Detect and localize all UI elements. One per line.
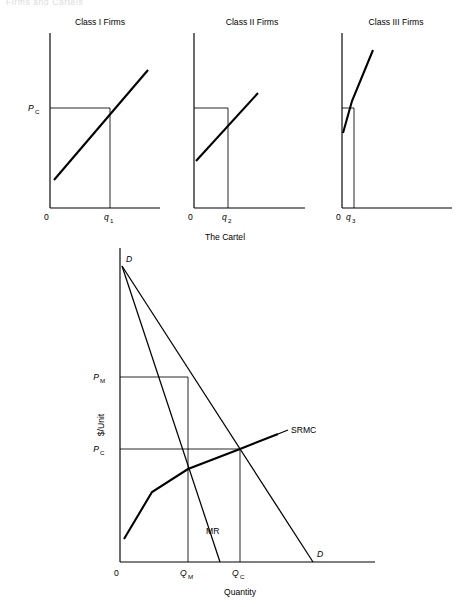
panel-class-3-x-tick-label: q 3 <box>346 212 356 224</box>
cartel-demand-curve <box>122 266 313 562</box>
panel-class-2-title: Class II Firms <box>226 17 279 27</box>
figure-page: Firms and Cartels Class I Firms P C 0 q … <box>0 0 462 607</box>
panel-class-1-price-label: P C <box>28 103 40 115</box>
cartel-mr-label: MR <box>206 526 219 536</box>
economics-figure: Class I Firms P C 0 q 1 Class II Firms <box>0 0 462 607</box>
cartel-title: The Cartel <box>205 232 245 242</box>
cartel-pm-label: P M <box>93 372 105 384</box>
panel-class-1-mc-curve <box>54 70 148 180</box>
svg-text:C: C <box>100 449 105 456</box>
cartel-demand-top-label: D <box>126 254 132 264</box>
cartel-y-axis-title: $/Unit <box>96 413 106 436</box>
svg-text:C: C <box>35 108 40 115</box>
panel-the-cartel: The Cartel $/Unit Quantity D <box>93 232 375 597</box>
cartel-pc-label: P C <box>93 444 105 456</box>
cartel-srmc-leader <box>278 430 288 434</box>
svg-text:M: M <box>188 573 193 580</box>
panel-class-2: Class II Firms 0 q 2 <box>188 17 305 224</box>
svg-text:3: 3 <box>352 217 356 224</box>
panel-class-2-x-tick-label: q 2 <box>222 212 232 224</box>
svg-text:M: M <box>100 377 105 384</box>
cartel-x-axis-title: Quantity <box>224 587 257 597</box>
cartel-qc-label: Q C <box>232 568 245 580</box>
panel-class-3: Class III Firms 0 q 3 <box>336 17 452 224</box>
cartel-srmc-label: SRMC <box>291 425 316 435</box>
svg-text:C: C <box>240 573 245 580</box>
panel-class-1-title: Class I Firms <box>75 17 125 27</box>
cartel-qm-label: Q M <box>180 568 193 580</box>
svg-text:q: q <box>104 212 109 222</box>
panel-class-3-mc-curve <box>343 50 373 133</box>
cartel-origin-label: 0 <box>114 568 119 578</box>
svg-text:2: 2 <box>228 217 232 224</box>
cartel-srmc-curve <box>124 434 278 539</box>
panel-class-3-origin-label: 0 <box>336 212 341 222</box>
svg-text:Q: Q <box>180 568 187 578</box>
panel-class-1-x-tick-label: q 1 <box>104 212 114 224</box>
svg-text:q: q <box>346 212 351 222</box>
svg-text:q: q <box>222 212 227 222</box>
cartel-demand-end-label: D <box>317 549 323 559</box>
panel-class-3-title: Class III Firms <box>369 17 424 27</box>
svg-text:P: P <box>28 103 34 113</box>
panel-class-2-mc-curve <box>196 93 258 161</box>
svg-text:P: P <box>93 444 99 454</box>
svg-text:1: 1 <box>110 217 114 224</box>
svg-text:Q: Q <box>232 568 239 578</box>
panel-class-1-origin-label: 0 <box>44 212 49 222</box>
panel-class-1: Class I Firms P C 0 q 1 <box>28 17 160 224</box>
svg-text:P: P <box>93 372 99 382</box>
panel-class-2-origin-label: 0 <box>188 212 193 222</box>
